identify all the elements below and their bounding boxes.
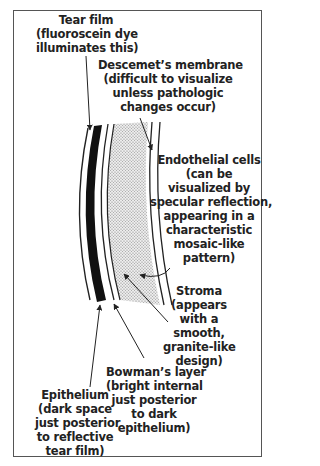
stroma-title: Stroma [163,284,235,298]
bowman-arrow [114,304,144,358]
stroma-desc-1: (appears [163,298,235,312]
label-bowman: Bowman’s layer (bright internal just pos… [106,365,202,435]
label-epithelium: Epithelium (dark space just posterior to… [35,388,115,458]
bowman-title: Bowman’s layer [106,365,202,379]
endothelial-desc-4: appearing in a [150,209,268,223]
epithelium-desc-4: tear film) [35,444,115,458]
stroma-desc-2: with a [163,312,235,326]
stroma-desc-4: granite-like [163,340,235,354]
descemet-desc-1: (difficult to visualize [98,72,238,86]
endothelial-desc-3: specular reflection, [150,195,268,209]
endothelial-desc-7: pattern) [150,251,268,265]
endothelial-desc-5: characteristic [150,223,268,237]
endothelial-desc-1: (can be [150,167,268,181]
label-stroma: Stroma (appears with a smooth, granite-l… [163,284,235,368]
epithelium-desc-3: to reflective [35,430,115,444]
label-endothelial: Endothelial cells (can be visualized by … [150,153,268,265]
tear-film-title: Tear film [36,13,136,27]
epithelium-desc-1: (dark space [35,402,115,416]
bowman-desc-4: epithelium) [106,421,202,435]
descemet-desc-2: unless pathologic [98,86,238,100]
stroma-desc-3: smooth, [163,326,235,340]
bowman-desc-1: (bright internal [106,379,202,393]
endothelial-desc-6: mosaic-like [150,237,268,251]
epithelium-desc-2: just posterior [35,416,115,430]
epithelium-band [86,125,106,302]
epithelium-arrow [90,305,100,387]
tear-film-desc-1: (fluoroscein dye [36,27,136,41]
tear-film-desc-2: illuminates this) [36,41,136,55]
label-tear-film: Tear film (fluoroscein dye illuminates t… [36,13,136,55]
label-descemet: Descemet’s membrane (difficult to visual… [98,58,238,114]
epithelium-title: Epithelium [35,388,115,402]
descemet-desc-3: changes occur) [98,100,238,114]
descemet-title: Descemet’s membrane [98,58,238,72]
bowman-desc-3: to dark [106,407,202,421]
endothelial-desc-2: visualized by [150,181,268,195]
endothelial-title: Endothelial cells [150,153,268,167]
tear-film-arrow [86,56,90,130]
bowman-desc-2: just posterior [106,393,202,407]
